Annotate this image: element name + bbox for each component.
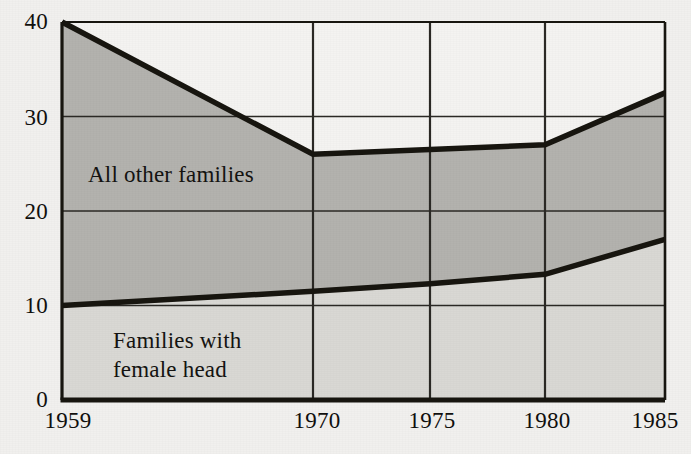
y-tick-label-10: 10 <box>10 293 48 319</box>
x-tick-label-1959: 1959 <box>44 408 91 434</box>
x-tick-label-1985: 1985 <box>631 408 678 434</box>
y-tick-label-40: 40 <box>10 9 48 35</box>
x-tick-label-1980: 1980 <box>523 408 570 434</box>
series-label-female-head-line1: Families with <box>113 326 241 355</box>
y-tick-label-20: 20 <box>10 199 48 225</box>
y-tick-label-0: 0 <box>10 387 48 413</box>
series-label-female-head-line2: female head <box>113 355 241 384</box>
y-tick-label-30: 30 <box>10 105 48 131</box>
x-tick-label-1970: 1970 <box>293 408 340 434</box>
chart-figure: 40 30 20 10 0 1959 1970 1975 1980 1985 A… <box>0 0 691 454</box>
series-label-all-other-families-text: All other families <box>88 162 254 187</box>
series-label-all-other-families: All other families <box>88 160 254 189</box>
stacked-area-chart <box>0 0 691 454</box>
x-tick-label-1975: 1975 <box>408 408 455 434</box>
series-label-families-female-head: Families with female head <box>113 326 241 385</box>
